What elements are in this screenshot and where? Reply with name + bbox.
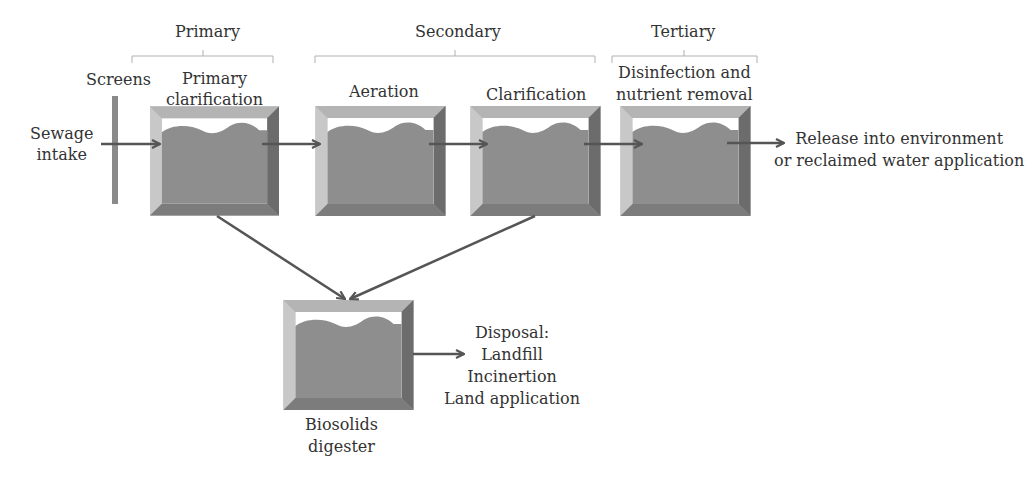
bracket-secondary xyxy=(315,50,595,63)
tank-clarification xyxy=(471,106,601,216)
bracket-primary xyxy=(132,50,273,63)
bracket-tertiary xyxy=(612,50,757,63)
arrow-primary-digester xyxy=(217,216,345,299)
tank-primary-clarification xyxy=(150,106,279,215)
tank-aeration xyxy=(316,106,446,216)
tank-biosolids-digester xyxy=(284,300,414,410)
arrow-clarification-digester xyxy=(350,216,535,299)
diagram-graphics xyxy=(0,0,1034,479)
tank-disinfection xyxy=(621,106,751,216)
screens-bar xyxy=(112,96,118,204)
